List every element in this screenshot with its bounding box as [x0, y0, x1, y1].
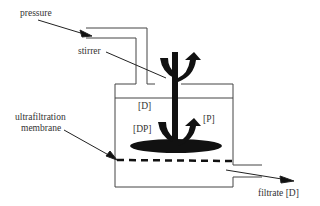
- ultrafiltration-membrane: [117, 160, 233, 161]
- membrane-label-line2: membrane: [21, 124, 61, 134]
- stirrer-blade: [130, 139, 222, 153]
- top-right-curved-arrow: [178, 52, 201, 82]
- filtrate-label: filtrate [D]: [258, 189, 299, 199]
- ultrafiltration-cell-diagram: [0, 0, 320, 206]
- stirrer-label: stirrer: [78, 47, 101, 57]
- filtrate-leader-line: [226, 170, 288, 180]
- membrane-leader-line: [64, 130, 114, 158]
- pressure-label: pressure: [20, 9, 52, 19]
- lower-left-curved-arrow: [158, 122, 174, 142]
- d-concentration-label: [D]: [138, 102, 151, 112]
- pressure-arrowhead: [80, 30, 92, 37]
- dp-concentration-label: [DP]: [133, 125, 151, 135]
- membrane-label-line1: ultrafiltration: [15, 113, 66, 123]
- filtrate-arrowhead: [280, 176, 294, 183]
- pressure-leader-line: [38, 20, 84, 34]
- stirrer-shaft: [172, 52, 178, 152]
- p-concentration-label: [P]: [203, 115, 215, 125]
